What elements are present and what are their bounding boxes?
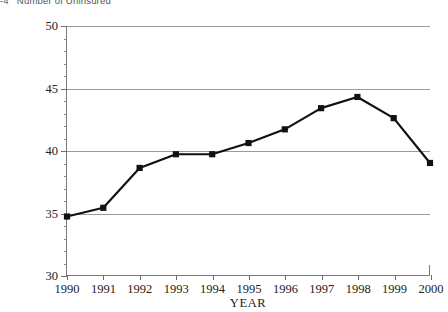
x-tick-1991 [103, 275, 104, 280]
data-point-1996 [282, 126, 288, 132]
figure-container: -4Number of Uninsured NUMBER OF UNINSURE… [0, 0, 448, 312]
x-tick-1995 [249, 275, 250, 280]
figure-caption: -4Number of Uninsured [0, 0, 448, 9]
x-axis-label-1990: 1990 [55, 282, 80, 297]
y-axis-label-50: 50 [46, 19, 59, 34]
x-tick-1993 [176, 275, 177, 280]
data-point-1992 [137, 165, 143, 171]
x-tick-1997 [322, 275, 323, 280]
x-axis-label-1994: 1994 [200, 282, 225, 297]
x-tick-1994 [213, 275, 214, 280]
x-tick-1992 [140, 275, 141, 280]
x-axis-label-1997: 1997 [309, 282, 334, 297]
data-point-1993 [173, 151, 179, 157]
x-axis-label-1995: 1995 [237, 282, 262, 297]
plot-area: 3035404550 19901991199219931994199519961… [66, 26, 430, 276]
x-axis-label-1993: 1993 [164, 282, 189, 297]
data-point-1990 [64, 213, 70, 219]
series-line [67, 97, 430, 217]
x-tick-1996 [285, 275, 286, 280]
figure-caption-text: Number of Uninsured [17, 0, 111, 6]
x-tick-1990 [67, 275, 68, 280]
data-point-1997 [318, 105, 324, 111]
y-axis-label-45: 45 [46, 81, 59, 96]
y-axis-label-35: 35 [46, 206, 59, 221]
data-point-2000 [427, 160, 433, 166]
data-point-1994 [209, 151, 215, 157]
figure-caption-number: -4 [0, 0, 9, 6]
data-point-1998 [354, 94, 360, 100]
x-axis-label-1999: 1999 [382, 282, 407, 297]
x-axis-label-1996: 1996 [273, 282, 298, 297]
data-point-1995 [245, 140, 251, 146]
y-axis-label-40: 40 [46, 144, 59, 159]
data-point-1999 [391, 115, 397, 121]
data-point-1991 [100, 205, 106, 211]
x-axis-label-2000: 2000 [419, 282, 444, 297]
data-series-uninsured [67, 26, 430, 275]
x-tick-1998 [358, 275, 359, 280]
x-axis-label-1998: 1998 [346, 282, 371, 297]
x-axis-label-1991: 1991 [91, 282, 116, 297]
x-axis-label-1992: 1992 [127, 282, 152, 297]
x-axis-title: YEAR [66, 296, 430, 311]
x-tick-1999 [395, 275, 396, 280]
x-tick-2000 [431, 275, 432, 280]
